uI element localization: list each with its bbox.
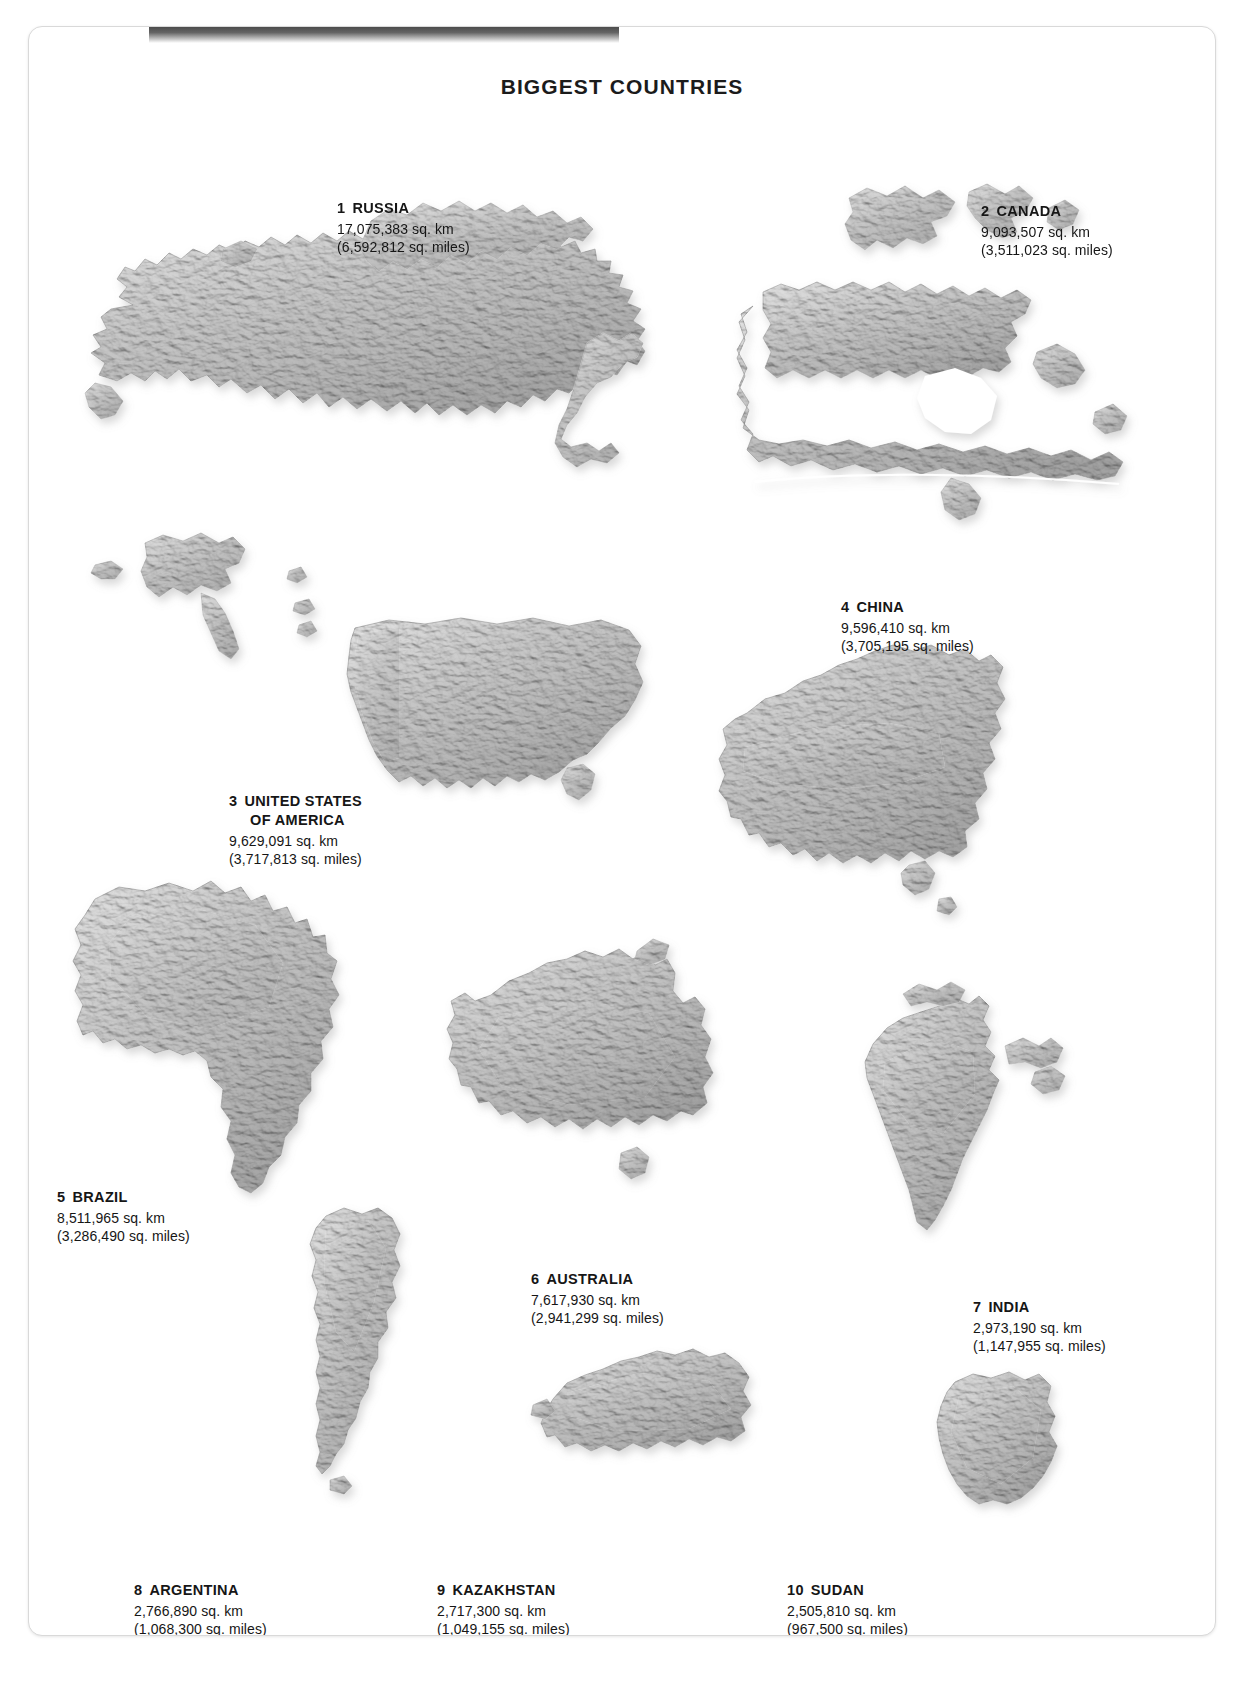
sudan-name-row: 10SUDAN xyxy=(787,1581,908,1600)
australia-area-miles: (2,941,299 sq. miles) xyxy=(531,1309,664,1327)
label-canada: 2CANADA 9,093,507 sq. km (3,511,023 sq. … xyxy=(981,202,1113,260)
sudan-map-shape xyxy=(909,1352,1109,1552)
canada-area-km: 9,093,507 sq. km xyxy=(981,223,1113,241)
kazakhstan-map-shape xyxy=(519,1327,779,1487)
figure-plate: BIGGEST COUNTRIES xyxy=(28,26,1216,1636)
brazil-area-km: 8,511,965 sq. km xyxy=(57,1209,190,1227)
alaska-relief-map xyxy=(89,515,319,675)
united-states-name-line2: OF AMERICA xyxy=(229,811,362,830)
china-relief-map xyxy=(709,607,1029,947)
kazakhstan-rank: 9 xyxy=(437,1582,445,1598)
label-kazakhstan: 9KAZAKHSTAN 2,717,300 sq. km (1,049,155 … xyxy=(437,1581,570,1636)
page-root: BIGGEST COUNTRIES xyxy=(0,0,1246,1685)
sudan-rank: 10 xyxy=(787,1582,804,1598)
argentina-map-shape xyxy=(274,1182,454,1502)
india-name-row: 7INDIA xyxy=(973,1298,1106,1317)
united-states-relief-map xyxy=(329,582,669,852)
argentina-area-miles: (1,068,300 sq. miles) xyxy=(134,1620,267,1636)
label-argentina: 8ARGENTINA 2,766,890 sq. km (1,068,300 s… xyxy=(134,1581,267,1636)
argentina-relief-map xyxy=(274,1182,454,1502)
china-area-miles: (3,705,195 sq. miles) xyxy=(841,637,974,655)
australia-rank: 6 xyxy=(531,1271,539,1287)
canada-area-miles: (3,511,023 sq. miles) xyxy=(981,241,1113,259)
kazakhstan-area-miles: (1,049,155 sq. miles) xyxy=(437,1620,570,1636)
brazil-rank: 5 xyxy=(57,1189,65,1205)
alaska-map-shape xyxy=(89,515,319,675)
australia-map-shape xyxy=(429,907,769,1227)
india-rank: 7 xyxy=(973,1299,981,1315)
brazil-relief-map xyxy=(59,857,379,1237)
china-name-row: 4CHINA xyxy=(841,598,974,617)
united-states-rank: 3 xyxy=(229,793,237,809)
united-states-name: UNITED STATES xyxy=(244,793,362,809)
china-rank: 4 xyxy=(841,599,849,615)
australia-name: AUSTRALIA xyxy=(546,1271,633,1287)
page-top-bleed xyxy=(149,27,619,43)
australia-area-km: 7,617,930 sq. km xyxy=(531,1291,664,1309)
india-relief-map xyxy=(839,972,1089,1262)
sudan-relief-map xyxy=(909,1352,1109,1552)
page-title: BIGGEST COUNTRIES xyxy=(29,75,1215,99)
label-brazil: 5BRAZIL 8,511,965 sq. km (3,286,490 sq. … xyxy=(57,1188,190,1246)
label-china: 4CHINA 9,596,410 sq. km (3,705,195 sq. m… xyxy=(841,598,974,656)
india-name: INDIA xyxy=(988,1299,1029,1315)
sudan-area-km: 2,505,810 sq. km xyxy=(787,1602,908,1620)
brazil-map-shape xyxy=(59,857,379,1237)
india-area-km: 2,973,190 sq. km xyxy=(973,1319,1106,1337)
kazakhstan-area-km: 2,717,300 sq. km xyxy=(437,1602,570,1620)
argentina-area-km: 2,766,890 sq. km xyxy=(134,1602,267,1620)
label-india: 7INDIA 2,973,190 sq. km (1,147,955 sq. m… xyxy=(973,1298,1106,1356)
argentina-name-row: 8ARGENTINA xyxy=(134,1581,267,1600)
china-name: CHINA xyxy=(856,599,904,615)
kazakhstan-name: KAZAKHSTAN xyxy=(452,1582,555,1598)
kazakhstan-name-row: 9KAZAKHSTAN xyxy=(437,1581,570,1600)
sudan-area-miles: (967,500 sq. miles) xyxy=(787,1620,908,1636)
kazakhstan-relief-map xyxy=(519,1327,779,1487)
russia-area-km: 17,075,383 sq. km xyxy=(337,220,470,238)
brazil-area-miles: (3,286,490 sq. miles) xyxy=(57,1227,190,1245)
russia-area-miles: (6,592,812 sq. miles) xyxy=(337,238,470,256)
russia-name: RUSSIA xyxy=(352,200,409,216)
china-area-km: 9,596,410 sq. km xyxy=(841,619,974,637)
russia-rank: 1 xyxy=(337,200,345,216)
brazil-name: BRAZIL xyxy=(72,1189,127,1205)
label-australia: 6AUSTRALIA 7,617,930 sq. km (2,941,299 s… xyxy=(531,1270,664,1328)
canada-rank: 2 xyxy=(981,203,989,219)
australia-relief-map xyxy=(429,907,769,1227)
china-map-shape xyxy=(709,607,1029,947)
label-russia: 1RUSSIA 17,075,383 sq. km (6,592,812 sq.… xyxy=(337,199,470,257)
argentina-name: ARGENTINA xyxy=(149,1582,238,1598)
canada-name-row: 2CANADA xyxy=(981,202,1113,221)
argentina-rank: 8 xyxy=(134,1582,142,1598)
india-map-shape xyxy=(839,972,1089,1262)
brazil-name-row: 5BRAZIL xyxy=(57,1188,190,1207)
australia-name-row: 6AUSTRALIA xyxy=(531,1270,664,1289)
russia-name-row: 1RUSSIA xyxy=(337,199,470,218)
united-states-map-shape xyxy=(329,582,669,852)
united-states-area-km: 9,629,091 sq. km xyxy=(229,832,362,850)
canada-name: CANADA xyxy=(996,203,1061,219)
label-sudan: 10SUDAN 2,505,810 sq. km (967,500 sq. mi… xyxy=(787,1581,908,1636)
united-states-name-row: 3UNITED STATES xyxy=(229,792,362,811)
sudan-name: SUDAN xyxy=(811,1582,864,1598)
